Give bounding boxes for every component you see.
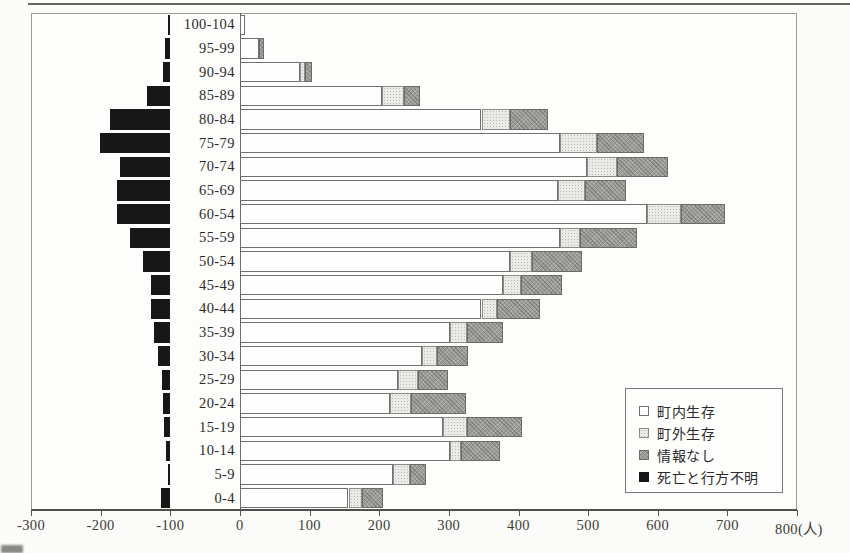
bar-segment-in-town-survivor [240, 417, 443, 437]
bar-segment-in-town-survivor [240, 370, 398, 390]
x-axis-tick-label: -300 [0, 517, 63, 534]
bar-segment-no-information [597, 133, 644, 153]
cropped-caption-strip [0, 546, 420, 553]
bar-segment-out-of-town-survivor [558, 180, 585, 200]
bar-segment-no-information [467, 417, 522, 437]
age-group-label: 100-104 [155, 17, 235, 32]
bar-segment-out-of-town-survivor [560, 228, 580, 248]
bar-segment-out-of-town-survivor [390, 393, 412, 413]
x-axis-tick-label: 400 [487, 517, 551, 534]
bar-segment-out-of-town-survivor [443, 417, 467, 437]
x-axis-tick [310, 510, 311, 516]
bar-segment-out-of-town-survivor [587, 157, 617, 177]
bar-segment-in-town-survivor [240, 251, 510, 271]
x-axis-tick-label: 300 [417, 517, 481, 534]
bar-segment-no-information [461, 441, 500, 461]
x-axis-tick-label: -200 [69, 517, 133, 534]
x-axis-tick-label: 600 [626, 517, 690, 534]
age-group-label: 15-19 [155, 420, 235, 435]
age-group-label: 45-49 [155, 278, 235, 293]
legend-item-out-of-town-survivor: 町外生存 [639, 422, 782, 444]
bar-segment-no-information [497, 299, 540, 319]
bar-segment-no-information [259, 38, 264, 58]
bar-segment-no-information [617, 157, 669, 177]
x-axis-tick [379, 510, 380, 516]
bar-segment-out-of-town-survivor [647, 204, 682, 224]
bar-segment-in-town-survivor [240, 228, 560, 248]
age-group-label: 75-79 [155, 136, 235, 151]
age-group-label: 95-99 [155, 41, 235, 56]
bar-segment-no-information [467, 322, 503, 342]
bar-segment-out-of-town-survivor [422, 346, 437, 366]
x-axis-tick-label: 100 [278, 517, 342, 534]
legend-item-no-information: 情報なし [639, 444, 782, 466]
bar-segment-in-town-survivor [240, 157, 587, 177]
bar-segment-no-information [362, 488, 384, 508]
legend: 町内生存 町外生存 情報なし 死亡と行方不明 [625, 388, 783, 493]
x-axis-tick [727, 510, 728, 516]
bar-segment-in-town-survivor [240, 133, 560, 153]
x-axis-tick-label: 500 [556, 517, 620, 534]
legend-label: 死亡と行方不明 [657, 467, 759, 487]
age-group-label: 25-29 [155, 372, 235, 387]
age-group-label: 90-94 [155, 65, 235, 80]
bar-segment-out-of-town-survivor [482, 109, 511, 129]
bar-segment-in-town-survivor [240, 180, 558, 200]
x-axis-tick [519, 510, 520, 516]
bar-segment-no-information [681, 204, 724, 224]
x-axis-tick [658, 510, 659, 516]
page-rule-line [28, 3, 850, 5]
age-group-label: 10-14 [155, 443, 235, 458]
x-axis-line [31, 509, 797, 511]
bar-segment-in-town-survivor [240, 322, 450, 342]
age-group-label: 5-9 [155, 467, 235, 482]
age-group-label: 50-54 [155, 254, 235, 269]
bar-segment-out-of-town-survivor [560, 133, 597, 153]
bar-segment-in-town-survivor [240, 38, 259, 58]
bar-segment-in-town-survivor [240, 488, 349, 508]
age-group-label: 40-44 [155, 301, 235, 316]
bar-segment-no-information [510, 109, 548, 129]
legend-label: 情報なし [657, 445, 715, 465]
population-pyramid-chart: 100-10495-9990-9485-8980-8475-7970-7465-… [0, 0, 850, 553]
x-axis-tick [31, 510, 32, 516]
bar-segment-in-town-survivor [240, 275, 503, 295]
bar-segment-out-of-town-survivor [450, 322, 467, 342]
age-group-label: 30-34 [155, 349, 235, 364]
bar-segment-in-town-survivor [240, 15, 246, 35]
age-group-label: 35-39 [155, 325, 235, 340]
bar-segment-out-of-town-survivor [349, 488, 362, 508]
age-group-label: 20-24 [155, 396, 235, 411]
legend-item-dead-or-missing: 死亡と行方不明 [639, 466, 782, 488]
age-group-label: 70-74 [155, 159, 235, 174]
bar-segment-out-of-town-survivor [382, 86, 404, 106]
bar-segment-out-of-town-survivor [450, 441, 461, 461]
bar-segment-in-town-survivor [240, 346, 422, 366]
bar-segment-in-town-survivor [240, 464, 393, 484]
bar-segment-no-information [404, 86, 421, 106]
legend-swatch-dead-or-missing-icon [639, 472, 649, 482]
legend-swatch-out-of-town-survivor-icon [639, 428, 649, 438]
x-axis-tick [797, 510, 798, 516]
legend-item-in-town-survivor: 町内生存 [639, 400, 782, 422]
age-group-label: 65-69 [155, 183, 235, 198]
x-axis-tick-label: 800(人) [775, 517, 850, 538]
x-axis-tick-label: 0 [208, 517, 272, 534]
bar-segment-out-of-town-survivor [482, 299, 497, 319]
bar-segment-no-information [437, 346, 468, 366]
age-group-label: 0-4 [155, 491, 235, 506]
bar-segment-no-information [411, 393, 466, 413]
bar-segment-in-town-survivor [240, 62, 300, 82]
bar-segment-no-information [418, 370, 448, 390]
bar-segment-in-town-survivor [240, 204, 647, 224]
bar-segment-no-information [580, 228, 636, 248]
bar-segment-in-town-survivor [240, 109, 482, 129]
x-axis-tick [101, 510, 102, 516]
x-axis-tick-label: -100 [138, 517, 202, 534]
bar-segment-no-information [585, 180, 627, 200]
age-group-label: 80-84 [155, 112, 235, 127]
bar-segment-out-of-town-survivor [510, 251, 532, 271]
bar-segment-out-of-town-survivor [398, 370, 418, 390]
cropped-caption-strip [1, 545, 23, 553]
bar-segment-in-town-survivor [240, 86, 382, 106]
